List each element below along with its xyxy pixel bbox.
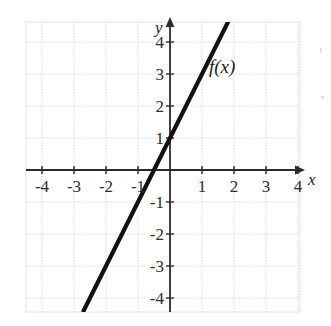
y-axis	[166, 17, 175, 312]
x-tick-label-2: 2	[222, 178, 246, 195]
y-tick-label--2: -2	[134, 226, 164, 243]
y-tick-label--4: -4	[134, 290, 164, 307]
coordinate-plane	[0, 0, 331, 326]
x-tick-label--3: -3	[62, 178, 86, 195]
x-tick-label--1: -1	[126, 178, 150, 195]
y-tick-label-1: 1	[142, 130, 164, 147]
x-tick-label--4: -4	[30, 178, 54, 195]
scan-speck	[320, 48, 322, 53]
y-tick-label-2: 2	[142, 98, 164, 115]
x-tick-label-4: 4	[286, 178, 310, 195]
x-tick-label-1: 1	[190, 178, 214, 195]
x-tick-label-3: 3	[254, 178, 278, 195]
x-axis	[26, 166, 305, 175]
y-tick-label-3: 3	[142, 66, 164, 83]
y-tick-label--1: -1	[134, 194, 164, 211]
y-tick-label--3: -3	[134, 258, 164, 275]
function-label: f(x)	[209, 57, 235, 76]
y-axis-label: y	[155, 19, 163, 36]
x-axis-label: x	[308, 171, 316, 188]
graph-figure: -4 -3 -2 -1 1 2 3 4 4 3 2 1 -1 -2 -3 -4 …	[0, 0, 331, 326]
x-tick-label--2: -2	[94, 178, 118, 195]
scan-speck	[321, 96, 324, 99]
